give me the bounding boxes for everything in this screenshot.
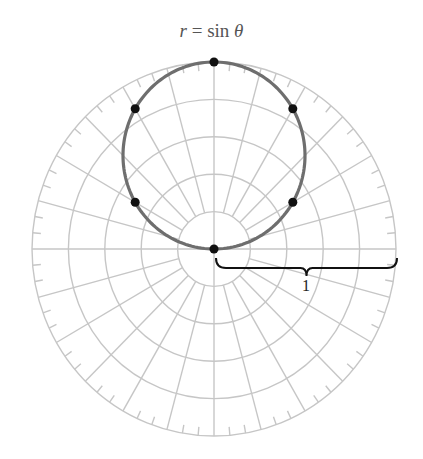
grid-tick xyxy=(387,233,395,234)
grid-tick xyxy=(244,425,245,433)
grid-tick xyxy=(137,411,140,419)
grid-tick xyxy=(75,129,81,134)
grid-tick xyxy=(65,142,72,147)
grid-radial-line xyxy=(38,259,179,298)
grid-radial-line xyxy=(246,156,372,231)
scale-label: 1 xyxy=(296,277,316,295)
grid-tick xyxy=(137,80,140,88)
grid-tick xyxy=(326,106,331,112)
grid-tick xyxy=(35,217,43,218)
data-point xyxy=(288,198,297,207)
grid-tick xyxy=(385,217,393,218)
grid-tick xyxy=(372,170,379,174)
grid-tick xyxy=(287,411,290,419)
grid-radial-line xyxy=(56,268,182,343)
grid-tick xyxy=(35,280,43,281)
scale-brace xyxy=(216,258,397,276)
data-point xyxy=(131,198,140,207)
grid-tick xyxy=(110,96,115,103)
grid-tick xyxy=(314,96,319,103)
data-point xyxy=(288,104,297,113)
grid-tick xyxy=(347,129,353,134)
grid-radial-line xyxy=(167,68,205,213)
grid-tick xyxy=(49,324,56,328)
data-point xyxy=(210,58,219,67)
grid-tick xyxy=(65,351,72,356)
grid-tick xyxy=(273,73,276,81)
grid-tick xyxy=(33,233,41,234)
grid-tick xyxy=(287,80,290,88)
grid-radial-line xyxy=(167,285,205,430)
data-point xyxy=(131,104,140,113)
grid-tick xyxy=(75,364,81,369)
grid-radial-line xyxy=(123,281,196,411)
grid-tick xyxy=(198,427,199,435)
grid-tick xyxy=(385,280,393,281)
grid-tick xyxy=(273,417,276,425)
grid-radial-line xyxy=(223,68,261,213)
grid-tick xyxy=(110,395,115,402)
grid-radial-line xyxy=(38,201,179,240)
grid-radial-line xyxy=(240,275,343,381)
grid-tick xyxy=(43,310,51,313)
grid-tick xyxy=(152,417,155,425)
grid-tick xyxy=(356,351,363,356)
grid-tick xyxy=(377,310,385,313)
grid-tick xyxy=(97,106,102,112)
grid-tick xyxy=(97,386,102,392)
grid-tick xyxy=(314,395,319,402)
grid-radial-line xyxy=(85,275,188,381)
data-point xyxy=(210,245,219,254)
grid-tick xyxy=(229,427,230,435)
grid-radial-line xyxy=(249,259,390,298)
grid-radial-line xyxy=(223,285,261,430)
grid-radial-line xyxy=(249,201,390,240)
grid-radial-line xyxy=(56,156,182,231)
grid-tick xyxy=(49,170,56,174)
grid-tick xyxy=(182,425,183,433)
brace-path xyxy=(216,258,397,276)
polar-grid-svg xyxy=(0,0,423,459)
grid-tick xyxy=(43,185,51,188)
grid-tick xyxy=(372,324,379,328)
grid-radial-line xyxy=(232,281,305,411)
grid-tick xyxy=(356,142,363,147)
grid-tick xyxy=(326,386,331,392)
grid-tick xyxy=(377,185,385,188)
grid-tick xyxy=(33,265,41,266)
grid-tick xyxy=(152,73,155,81)
polar-plot-figure: r = sin θ 1 xyxy=(0,0,423,459)
grid-tick xyxy=(347,364,353,369)
